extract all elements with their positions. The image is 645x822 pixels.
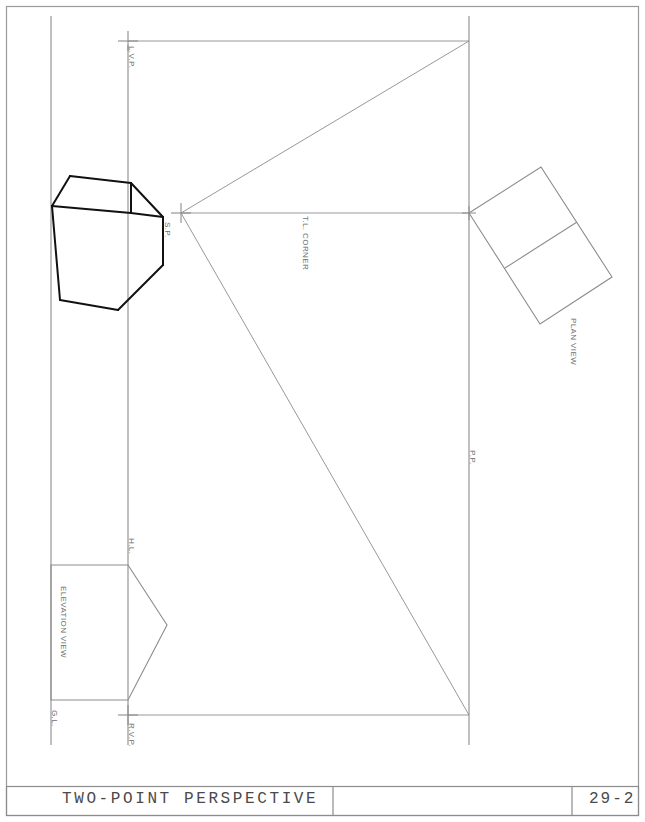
station-point-marker	[171, 203, 191, 223]
perspective-cube	[52, 176, 163, 310]
label-picture-plane: P.P.	[468, 450, 477, 465]
label-ground-line: G.L.	[50, 710, 59, 727]
drawing-sheet: L.V.P. S.P. T.L. CORNER PLAN VIEW P.P. H…	[0, 0, 645, 822]
label-horizon-line: H.L.	[127, 538, 136, 554]
plan-view-shape	[469, 167, 612, 324]
right-vanishing-point-marker	[118, 705, 138, 725]
technical-drawing-canvas	[0, 0, 645, 822]
label-tl-corner: T.L. CORNER	[301, 216, 310, 270]
label-elevation-view: ELEVATION VIEW	[59, 586, 68, 658]
title-block-drawing-title: TWO-POINT PERSPECTIVE	[62, 790, 318, 808]
construction-line-sp-to-top-right	[181, 41, 469, 213]
label-right-vanishing-point: R.V.P.	[127, 723, 136, 747]
label-station-point: S.P.	[163, 222, 172, 238]
label-left-vanishing-point: L.V.P.	[127, 46, 136, 68]
sheet-border	[7, 7, 639, 816]
elevation-view-shape	[51, 565, 167, 700]
title-block-drawing-number: 29-2	[589, 790, 635, 808]
label-plan-view: PLAN VIEW	[569, 318, 578, 365]
construction-line-sp-to-bottom-right	[181, 213, 469, 715]
